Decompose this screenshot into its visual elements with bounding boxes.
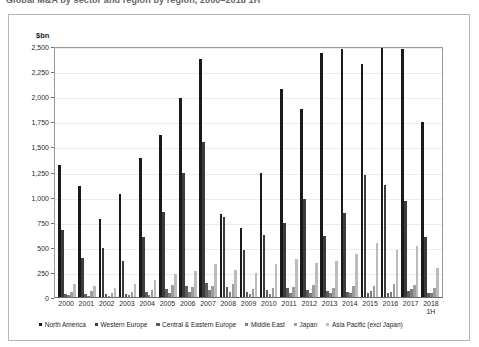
y-axis-tick-label: 1,500 <box>11 144 49 151</box>
bar <box>182 173 185 297</box>
legend-item-label: Central & Eastern Europe <box>162 321 236 328</box>
bar-group <box>77 48 97 297</box>
bar <box>194 271 197 297</box>
bar <box>122 261 125 297</box>
legend-item-label: Middle East <box>251 321 285 328</box>
bar <box>295 259 298 297</box>
bar <box>223 217 226 297</box>
bar <box>142 237 145 297</box>
x-axis-tick-label: 2015 <box>360 300 380 316</box>
bar <box>114 288 117 297</box>
bar-group <box>319 48 339 297</box>
y-axis-unit-label: $bn <box>36 31 49 40</box>
y-axis-tick-mark <box>51 298 54 299</box>
x-axis-tick-label: 2004 <box>137 300 157 316</box>
bar <box>303 199 306 297</box>
bar <box>335 261 338 297</box>
legend-swatch-icon <box>95 323 98 326</box>
x-axis-tick-labels: 2000200120022003200420052006200720082009… <box>54 300 443 316</box>
bar <box>214 264 217 297</box>
x-axis-tick-label: 2007 <box>198 300 218 316</box>
y-axis-tick-label: 2,500 <box>11 44 49 51</box>
y-axis-tick-label: 250 <box>11 269 49 276</box>
x-axis-tick-label: 2016 <box>380 300 400 316</box>
bar <box>263 235 266 297</box>
legend-item[interactable]: Asia Pacific (excl Japan) <box>326 321 403 328</box>
bar <box>154 280 157 297</box>
legend-item-label: Asia Pacific (excl Japan) <box>332 321 403 328</box>
bar <box>436 268 439 297</box>
x-axis-tick-label: 2006 <box>178 300 198 316</box>
bar-group <box>420 48 440 297</box>
bar-group <box>380 48 400 297</box>
legend-item-label: North America <box>45 321 86 328</box>
bar <box>81 258 84 297</box>
plot-area <box>54 47 443 298</box>
chart-title-strip: Global M&A by sector and region by regio… <box>0 0 479 11</box>
legend-swatch-icon <box>156 323 159 326</box>
bar-group <box>339 48 359 297</box>
y-axis-tick-label: 1,750 <box>11 119 49 126</box>
bar <box>134 284 137 297</box>
bar-group <box>279 48 299 297</box>
bar-group <box>178 48 198 297</box>
legend-item[interactable]: North America <box>39 321 86 328</box>
x-axis-tick-label: 2014 <box>340 300 360 316</box>
x-axis-tick-label: 2002 <box>97 300 117 316</box>
x-axis-tick-label: 2017 <box>401 300 421 316</box>
legend-item-label: Western Europe <box>101 321 148 328</box>
x-axis-tick-label: 2000 <box>56 300 76 316</box>
legend-swatch-icon <box>245 323 248 326</box>
bar <box>61 230 64 297</box>
bar <box>255 273 258 297</box>
bar <box>343 213 346 297</box>
bar <box>315 263 318 297</box>
x-axis-tick-label: 20181H <box>421 300 441 316</box>
legend-swatch-icon <box>39 323 42 326</box>
bar <box>384 185 387 297</box>
legend-item[interactable]: Japan <box>294 321 317 328</box>
chart-frame: $bn 02505007501,0001,2501,5001,7502,0002… <box>8 14 470 341</box>
x-axis-tick-label: 2008 <box>218 300 238 316</box>
bar <box>162 212 165 297</box>
x-axis-tick-label: 2005 <box>157 300 177 316</box>
legend-item[interactable]: Western Europe <box>95 321 148 328</box>
bar <box>93 286 96 297</box>
x-axis-tick-label: 2010 <box>259 300 279 316</box>
chart-legend: North AmericaWestern EuropeCentral & Eas… <box>39 321 459 328</box>
y-axis-tick-label: 1,000 <box>11 194 49 201</box>
x-axis-tick-label: 2013 <box>319 300 339 316</box>
x-axis-tick-label: 2011 <box>279 300 299 316</box>
x-axis-tick-label: 2003 <box>117 300 137 316</box>
x-axis-tick-label: 2012 <box>299 300 319 316</box>
bar-group <box>259 48 279 297</box>
legend-item[interactable]: Middle East <box>245 321 285 328</box>
x-axis-tick-label: 2001 <box>76 300 96 316</box>
bar <box>174 274 177 297</box>
bar <box>283 223 286 297</box>
y-axis-tick-label: 1,250 <box>11 169 49 176</box>
x-axis-tick-sublabel: 1H <box>421 308 441 316</box>
page-title: Global M&A by sector and region by regio… <box>6 0 260 5</box>
bar-group <box>198 48 218 297</box>
legend-item[interactable]: Central & Eastern Europe <box>156 321 236 328</box>
legend-item-label: Japan <box>300 321 318 328</box>
bar-group <box>57 48 77 297</box>
bar <box>404 201 407 297</box>
bar <box>355 254 358 297</box>
bar <box>424 237 427 297</box>
y-axis-tick-label: 500 <box>11 244 49 251</box>
bar <box>396 250 399 297</box>
bar-group <box>299 48 319 297</box>
y-axis-tick-label: 2,250 <box>11 69 49 76</box>
bar-group <box>400 48 420 297</box>
bar <box>202 142 205 297</box>
bar-group <box>238 48 258 297</box>
legend-swatch-icon <box>326 323 329 326</box>
y-axis-tick-label: 2,000 <box>11 94 49 101</box>
bar <box>102 248 105 297</box>
bar <box>73 284 76 297</box>
bar <box>364 175 367 298</box>
bar-group <box>158 48 178 297</box>
y-axis-tick-label: 750 <box>11 219 49 226</box>
